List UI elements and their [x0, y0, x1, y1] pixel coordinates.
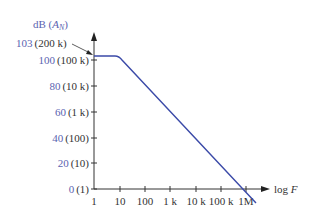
gain-curve [94, 56, 256, 203]
y-tick-label-0: 0(1) [69, 183, 90, 196]
y-axis-title: dB (AN) [33, 18, 68, 32]
x-tick-label-100: 100 [137, 195, 154, 207]
bode-plot: 0(1) 20(10) 40(100) 60(1 k) 80(10 k) 100… [0, 0, 313, 216]
x-tick-label-1k: 1 k [163, 195, 177, 207]
y-tick-label-80: 80(10 k) [49, 80, 89, 93]
y-axis-arrow-icon [91, 32, 97, 41]
x-tick-label-10: 10 [115, 195, 127, 207]
x-tick-label-10k: 10 k [186, 195, 206, 207]
x-axis-arrow-icon [261, 186, 270, 192]
x-tick-label-100k: 100 k [209, 195, 234, 207]
y-tick-label-100: 100(100 k) [38, 54, 89, 67]
x-axis-title: log F [274, 183, 298, 195]
y-tick-label-60: 60(1 k) [55, 106, 89, 119]
x-tick-label-1: 1 [91, 195, 97, 207]
y-tick-label-40: 40(100) [52, 132, 89, 145]
y-tick-label-20: 20(10) [58, 157, 90, 170]
annotation-label: 103(200 k) [16, 37, 67, 50]
x-tick-label-1M: 1M [238, 195, 254, 207]
